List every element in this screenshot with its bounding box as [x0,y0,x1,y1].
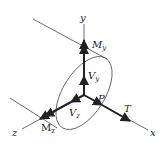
z-axis-label: z [11,127,18,138]
my-label: My [91,39,107,52]
mz-arrow-second-head [45,111,55,116]
t-label: T [124,103,132,114]
vy-label: Vy [88,70,100,83]
vz-label: Vz [69,107,80,120]
x-axis-label: x [150,127,156,138]
force-diagram: y x z My Vy P T Vz Mz [0,0,165,147]
mz-arrow [40,102,71,119]
y-axis-label: y [79,12,86,23]
mz-label: Mz [41,122,55,135]
p-label: P [97,93,105,104]
vz-arrow [71,95,84,102]
